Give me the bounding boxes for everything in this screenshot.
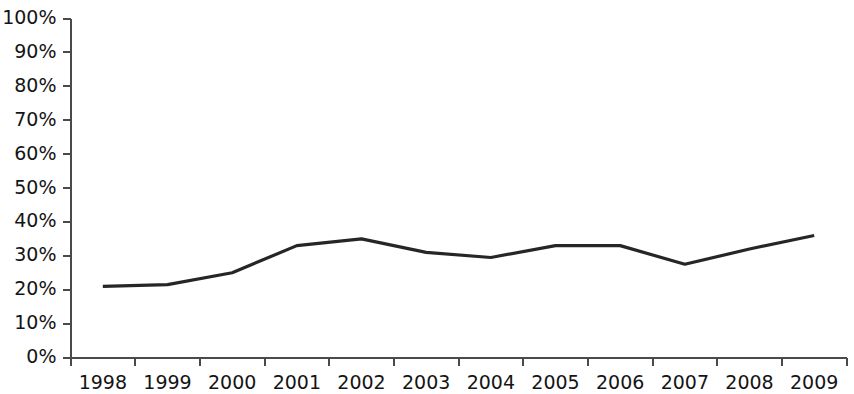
chart-canvas: 0%10%20%30%40%50%60%70%80%90%100% 199819…	[0, 0, 854, 394]
x-tick-label: 2004	[467, 371, 515, 393]
y-axis-tick-labels: 0%10%20%30%40%50%60%70%80%90%100%	[2, 6, 56, 367]
data-series-group	[103, 235, 814, 286]
y-tick-label: 70%	[14, 108, 56, 130]
x-tick-label: 2009	[790, 371, 838, 393]
data-line-series-1	[103, 235, 814, 286]
x-tick-label: 2001	[273, 371, 321, 393]
y-axis-ticks	[63, 19, 71, 358]
x-tick-label: 2005	[531, 371, 579, 393]
x-tick-label: 1999	[143, 371, 191, 393]
y-tick-label: 40%	[14, 209, 56, 231]
y-axis: 0%10%20%30%40%50%60%70%80%90%100%	[2, 6, 70, 367]
y-tick-label: 60%	[14, 142, 56, 164]
x-axis-tick-labels: 1998199920002001200220032004200520062007…	[79, 371, 839, 393]
y-tick-label: 20%	[14, 277, 56, 299]
y-tick-label: 30%	[14, 243, 56, 265]
y-tick-label: 80%	[14, 74, 56, 96]
line-chart: 0%10%20%30%40%50%60%70%80%90%100% 199819…	[0, 0, 854, 394]
x-tick-label: 2008	[725, 371, 773, 393]
x-tick-label: 2006	[596, 371, 644, 393]
x-tick-label: 2007	[661, 371, 709, 393]
y-tick-label: 100%	[2, 6, 56, 28]
y-tick-label: 10%	[14, 311, 56, 333]
x-tick-label: 2000	[208, 371, 256, 393]
x-axis: 1998199920002001200220032004200520062007…	[71, 358, 847, 393]
y-tick-label: 0%	[26, 345, 56, 367]
x-axis-ticks	[71, 358, 847, 366]
x-tick-label: 2003	[402, 371, 450, 393]
x-tick-label: 1998	[79, 371, 127, 393]
x-tick-label: 2002	[337, 371, 385, 393]
y-tick-label: 50%	[14, 176, 56, 198]
y-tick-label: 90%	[14, 40, 56, 62]
